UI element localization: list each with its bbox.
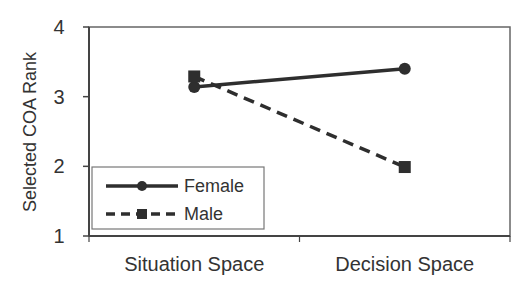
y-tick-label: 2	[53, 155, 64, 177]
y-tick-label: 4	[53, 16, 64, 38]
series-female	[188, 63, 411, 93]
square-marker	[399, 161, 411, 173]
y-tick-label: 3	[53, 86, 64, 108]
series-line	[194, 76, 405, 167]
x-tick-label: Decision Space	[335, 253, 474, 275]
circle-marker	[399, 63, 411, 75]
x-ticks: Situation SpaceDecision Space	[89, 236, 510, 275]
y-tick-label: 1	[53, 225, 64, 247]
circle-marker	[137, 181, 147, 191]
square-marker	[188, 70, 200, 82]
y-axis-title: Selected COA Rank	[20, 51, 40, 212]
x-tick-label: Situation Space	[124, 253, 264, 275]
series-line	[194, 69, 405, 87]
series-layer	[188, 63, 411, 173]
legend-label: Male	[184, 204, 223, 224]
chart: 1234 Situation SpaceDecision Space Selec…	[0, 0, 524, 292]
y-ticks: 1234	[53, 16, 89, 247]
square-marker	[137, 209, 147, 219]
legend-label: Female	[184, 176, 244, 196]
legend: FemaleMale	[92, 167, 264, 229]
circle-marker	[188, 81, 200, 93]
